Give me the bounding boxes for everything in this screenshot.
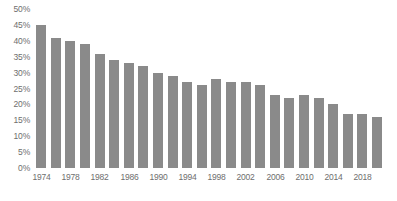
x-tick-label: 2006 bbox=[266, 172, 284, 182]
x-tick-label: 1998 bbox=[207, 172, 225, 182]
bar-slot bbox=[92, 9, 107, 168]
bar[interactable] bbox=[343, 114, 353, 168]
bar[interactable] bbox=[241, 82, 251, 168]
y-axis: 0%5%10%15%20%25%30%35%40%45%50% bbox=[0, 0, 34, 201]
x-tick-label: 1990 bbox=[149, 172, 167, 182]
x-tick-label: 1994 bbox=[178, 172, 196, 182]
bar-slot bbox=[180, 9, 195, 168]
bar[interactable] bbox=[51, 38, 61, 168]
bar[interactable] bbox=[109, 60, 119, 168]
bar[interactable] bbox=[36, 25, 46, 168]
bar[interactable] bbox=[153, 73, 163, 168]
bar-slot bbox=[268, 9, 283, 168]
bar[interactable] bbox=[124, 63, 134, 168]
bar-slot bbox=[224, 9, 239, 168]
bar-slot bbox=[297, 9, 312, 168]
bar-slot bbox=[34, 9, 49, 168]
x-tick-label: 2002 bbox=[236, 172, 254, 182]
x-tick-label: 1974 bbox=[32, 172, 50, 182]
bar[interactable] bbox=[226, 82, 236, 168]
bar[interactable] bbox=[182, 82, 192, 168]
bar-slot bbox=[209, 9, 224, 168]
bar[interactable] bbox=[255, 85, 265, 168]
bar-slot bbox=[195, 9, 210, 168]
bar-slot bbox=[63, 9, 78, 168]
bars-layer bbox=[34, 9, 389, 168]
bar[interactable] bbox=[95, 54, 105, 168]
y-tick-label: 0% bbox=[18, 163, 30, 173]
bar[interactable] bbox=[299, 95, 309, 168]
y-tick-label: 50% bbox=[14, 4, 30, 14]
bar[interactable] bbox=[270, 95, 280, 168]
bar-slot bbox=[311, 9, 326, 168]
bar-chart: 0%5%10%15%20%25%30%35%40%45%50% 19741978… bbox=[0, 0, 397, 201]
bar[interactable] bbox=[372, 117, 382, 168]
bar-slot bbox=[238, 9, 253, 168]
y-tick-label: 45% bbox=[14, 20, 30, 30]
x-tick-label: 1986 bbox=[120, 172, 138, 182]
bar[interactable] bbox=[314, 98, 324, 168]
bar[interactable] bbox=[284, 98, 294, 168]
bar[interactable] bbox=[357, 114, 367, 168]
y-tick-label: 35% bbox=[14, 52, 30, 62]
bar-slot bbox=[355, 9, 370, 168]
bar-slot bbox=[370, 9, 385, 168]
y-tick-label: 15% bbox=[14, 115, 30, 125]
bar-slot bbox=[340, 9, 355, 168]
bar-slot bbox=[136, 9, 151, 168]
bar[interactable] bbox=[328, 104, 338, 168]
y-tick-label: 30% bbox=[14, 68, 30, 78]
bar[interactable] bbox=[197, 85, 207, 168]
x-axis: 1974197819821986199019941998200220062010… bbox=[34, 170, 389, 190]
bar[interactable] bbox=[211, 79, 221, 168]
x-tick-label: 1982 bbox=[90, 172, 108, 182]
y-tick-label: 25% bbox=[14, 84, 30, 94]
bar[interactable] bbox=[80, 44, 90, 168]
bar[interactable] bbox=[65, 41, 75, 168]
bar-slot bbox=[78, 9, 93, 168]
y-tick-label: 10% bbox=[14, 131, 30, 141]
y-tick-label: 20% bbox=[14, 99, 30, 109]
bar-slot bbox=[326, 9, 341, 168]
bar-slot bbox=[253, 9, 268, 168]
bar-slot bbox=[151, 9, 166, 168]
x-tick-label: 2010 bbox=[295, 172, 313, 182]
x-tick-label: 2014 bbox=[324, 172, 342, 182]
bar-slot bbox=[165, 9, 180, 168]
bar[interactable] bbox=[168, 76, 178, 168]
bar[interactable] bbox=[138, 66, 148, 168]
y-tick-label: 40% bbox=[14, 36, 30, 46]
y-tick-label: 5% bbox=[18, 147, 30, 157]
bar-slot bbox=[122, 9, 137, 168]
plot-area bbox=[34, 9, 389, 168]
bar-slot bbox=[107, 9, 122, 168]
bar-slot bbox=[282, 9, 297, 168]
x-tick-label: 2018 bbox=[353, 172, 371, 182]
x-tick-label: 1978 bbox=[61, 172, 79, 182]
bar-slot bbox=[49, 9, 64, 168]
